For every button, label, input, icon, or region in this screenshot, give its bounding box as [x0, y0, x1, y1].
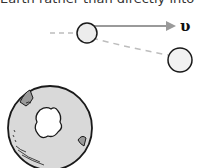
- deflected-path: [92, 38, 168, 55]
- object-initial: [77, 23, 97, 43]
- object-deflected: [168, 48, 192, 72]
- trajectory-diagram: υ: [0, 0, 199, 168]
- earth-icon: [8, 86, 92, 168]
- velocity-label: υ: [180, 17, 190, 35]
- arrowhead-icon: [166, 21, 176, 31]
